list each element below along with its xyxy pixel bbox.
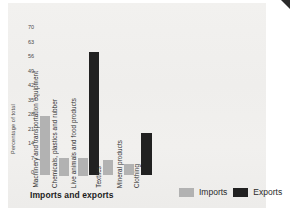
category-label: Live animals and food products	[71, 98, 79, 188]
category-label: Mineral products	[117, 140, 125, 188]
legend-exports-label: Exports	[253, 187, 282, 197]
y-tick-label: 70	[18, 24, 34, 30]
bar-imports-cat0	[40, 116, 50, 175]
exports-swatch-icon	[233, 188, 248, 197]
bar-imports-cat2	[78, 158, 88, 176]
bar-exports-cat2	[89, 52, 100, 176]
category-label: Machinery and transportation equipment	[33, 71, 41, 188]
category-label: Textiles	[96, 166, 104, 188]
category-label: Clothing	[134, 164, 142, 188]
imports-swatch-icon	[179, 188, 194, 197]
bar-imports-cat3	[103, 160, 113, 176]
legend-imports-label: Imports	[199, 187, 227, 197]
scanned-bar-chart: Percentage of total 07142128354249566370…	[0, 0, 290, 218]
chart-title: Imports and exports	[30, 190, 114, 200]
y-tick-label: 56	[18, 53, 34, 59]
category-label: Chemicals, plastics and rubber	[52, 99, 60, 188]
legend-item-imports: Imports	[179, 187, 227, 197]
y-axis-title: Percentage of total	[11, 104, 17, 154]
y-tick-label: 63	[18, 39, 34, 45]
page-corner-artifact	[281, 0, 290, 9]
legend: Imports Exports	[179, 187, 282, 197]
bar-exports-cat5	[141, 133, 152, 176]
bar-imports-cat1	[59, 158, 69, 176]
legend-item-exports: Exports	[233, 187, 282, 197]
